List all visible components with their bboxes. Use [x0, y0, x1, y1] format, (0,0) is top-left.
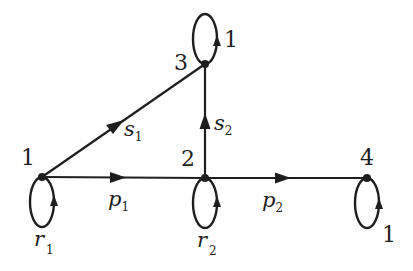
node-2: [201, 174, 209, 182]
self-loop-node-2: [193, 178, 217, 228]
arrow-icon: [213, 35, 221, 46]
arrow-icon: [50, 195, 58, 206]
edge-label-s2: s2: [214, 111, 232, 138]
edge-label-s1: s1: [124, 117, 142, 144]
node-1-label: 1: [21, 145, 35, 170]
self-loop-node-3: [193, 14, 217, 64]
arrow-icon: [213, 196, 221, 207]
arrow-icon: [275, 173, 291, 184]
node-3-label: 3: [174, 50, 188, 75]
loop-label-r2: r2: [197, 228, 217, 258]
arrow-icon: [375, 198, 383, 209]
node-4-label: 4: [360, 145, 374, 170]
markov-chain-diagram: 1 2 3 4 p1 p2 s1 s2 r1 r2 1 1: [0, 0, 413, 271]
edge-label-p1: p1: [108, 187, 129, 214]
loop-label-node-4: 1: [382, 222, 396, 247]
loop-label-r1: r1: [34, 227, 54, 257]
self-loop-node-1: [30, 177, 54, 227]
edge-label-p2: p2: [262, 188, 283, 215]
node-3: [201, 60, 209, 68]
arrow-icon: [110, 172, 126, 183]
node-4: [363, 174, 371, 182]
node-1: [38, 173, 46, 181]
self-loop-node-4: [355, 178, 379, 228]
node-2-label: 2: [181, 146, 195, 171]
loop-label-node-3: 1: [224, 27, 238, 52]
arrow-icon: [200, 113, 211, 129]
